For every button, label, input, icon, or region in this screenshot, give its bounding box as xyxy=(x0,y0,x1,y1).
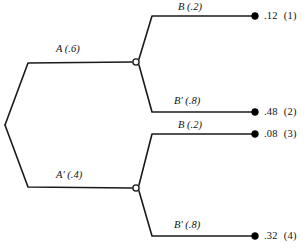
branch-label-b-lower: B (.2) xyxy=(178,120,202,131)
outcome-2-value: .48 xyxy=(264,106,278,117)
outcome-2-index: (2) xyxy=(284,106,297,117)
branch-a-to-b xyxy=(139,16,253,59)
branch-a-prime-to-b xyxy=(139,134,253,185)
outcome-3-index: (3) xyxy=(284,128,297,139)
terminal-node-4 xyxy=(252,233,259,240)
branch-label-a: A (.6) xyxy=(56,44,80,55)
branch-label-b-prime-lower: B′ (.8) xyxy=(174,220,200,231)
branch-label-b-upper: B (.2) xyxy=(178,2,202,13)
node-a xyxy=(133,59,139,65)
terminal-node-2 xyxy=(252,109,259,116)
tree-graphic xyxy=(0,0,307,251)
node-a-prime xyxy=(133,185,139,191)
outcome-2: .48(2) xyxy=(264,107,297,118)
outcome-3-value: .08 xyxy=(264,128,278,139)
probability-tree-diagram: A (.6) A′ (.4) B (.2) B′ (.8) B (.2) B′ … xyxy=(0,0,307,251)
outcome-1: .12(1) xyxy=(264,11,297,22)
branch-label-a-prime: A′ (.4) xyxy=(56,170,82,181)
outcome-1-value: .12 xyxy=(264,10,278,21)
outcome-4: .32(4) xyxy=(264,231,297,242)
outcome-4-index: (4) xyxy=(284,230,297,241)
terminal-node-3 xyxy=(252,131,259,138)
branch-label-b-prime-upper: B′ (.8) xyxy=(174,96,200,107)
terminal-node-1 xyxy=(252,13,259,20)
outcome-4-value: .32 xyxy=(264,230,278,241)
outcome-1-index: (1) xyxy=(284,10,297,21)
branch-root-to-a xyxy=(5,62,132,125)
outcome-3: .08(3) xyxy=(264,129,297,140)
